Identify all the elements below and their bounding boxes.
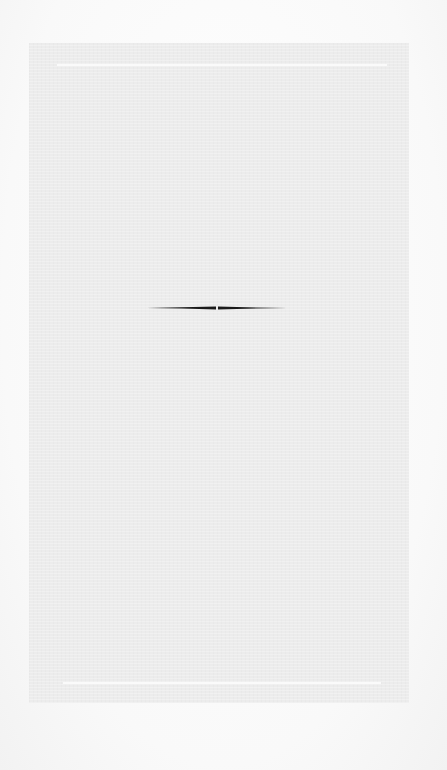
- document-page: [29, 43, 409, 703]
- bottom-border-rule: [63, 682, 381, 684]
- ornamental-divider-icon: [147, 306, 287, 310]
- scan-background: [0, 0, 447, 770]
- top-border-rule: [57, 64, 387, 66]
